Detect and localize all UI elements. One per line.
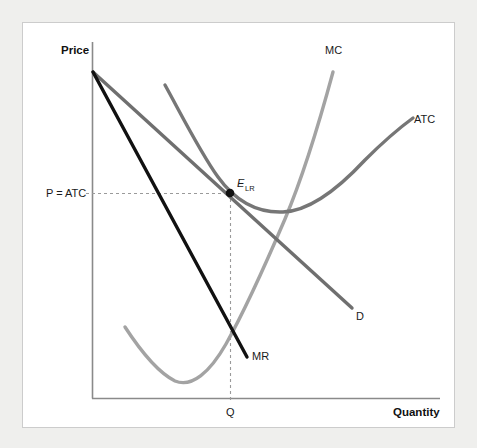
y-axis-label: Price (61, 44, 89, 56)
marginal-cost-curve-label: MC (325, 44, 342, 56)
demand-curve (93, 72, 352, 308)
demand-curve-label: D (356, 310, 364, 322)
marginal-cost-curve (125, 72, 333, 383)
economics-diagram-monopolistic-competition-long-run: Price Quantity P = ATC Q E LR MC ATC D M… (0, 0, 477, 448)
average-total-cost-curve-label: ATC (414, 113, 435, 125)
equilibrium-subscript-label: LR (245, 184, 255, 193)
quantity-tick-label: Q (226, 406, 235, 418)
marginal-revenue-curve (93, 72, 247, 357)
marginal-revenue-curve-label: MR (252, 350, 269, 362)
guide-lines-group (86, 193, 231, 403)
price-level-label: P = ATC (46, 187, 86, 199)
equilibrium-label: E (237, 177, 245, 189)
axes-group (92, 42, 440, 399)
equilibrium-point-dot (226, 189, 235, 198)
x-axis-label: Quantity (393, 406, 440, 418)
